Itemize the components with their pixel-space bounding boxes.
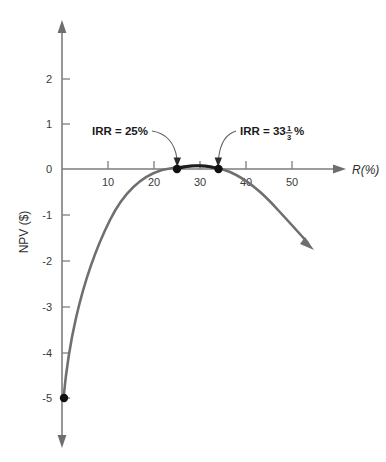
annotation-irr-right-label-prefix: IRR = 33 [240, 125, 286, 137]
annotation-irr-left-leader [152, 131, 177, 159]
annotation-irr-right-fraction-denominator: 3 [287, 133, 291, 142]
marker-root-left [173, 165, 181, 173]
y-tick-label-m2: -2 [42, 255, 52, 267]
y-tick-label-0: 0 [46, 163, 52, 175]
npv-curve-arrowhead [300, 237, 314, 250]
annotation-irr-right: IRR = 33 1 3 % [215, 124, 305, 167]
y-tick-label-2: 2 [46, 73, 52, 85]
chart-canvas: 2 1 0 -1 -2 -3 -4 -5 10 20 30 40 [0, 0, 386, 462]
annotation-irr-left-label: IRR = 25% [92, 125, 148, 137]
y-ticks-group: 2 1 0 -1 -2 -3 -4 -5 [42, 73, 70, 404]
annotation-irr-right-leader [219, 131, 237, 159]
annotation-irr-right-label-suffix: % [294, 125, 304, 137]
x-tick-label-10: 10 [102, 176, 114, 188]
y-tick-label-1: 1 [46, 118, 52, 130]
x-tick-label-50: 50 [286, 176, 298, 188]
y-axis-arrow-up [58, 20, 67, 33]
marker-root-right [214, 165, 222, 173]
npv-curve [64, 166, 309, 398]
annotation-irr-right-fraction-numerator: 1 [287, 124, 291, 133]
y-tick-label-m4: -4 [42, 347, 52, 359]
x-axis-title: R(%) [352, 163, 379, 177]
y-axis-arrow-down [58, 435, 67, 448]
y-tick-label-m5: -5 [42, 392, 52, 404]
x-tick-label-20: 20 [148, 176, 160, 188]
x-tick-label-30: 30 [194, 176, 206, 188]
y-tick-label-m1: -1 [42, 209, 52, 221]
annotation-irr-left: IRR = 25% [92, 125, 181, 167]
marker-y-intercept [60, 394, 68, 402]
y-tick-label-m3: -3 [42, 301, 52, 313]
x-axis-arrow-right [333, 165, 346, 174]
npv-irr-chart: 2 1 0 -1 -2 -3 -4 -5 10 20 30 40 [0, 0, 386, 462]
y-axis-title: NPV ($) [17, 211, 31, 254]
